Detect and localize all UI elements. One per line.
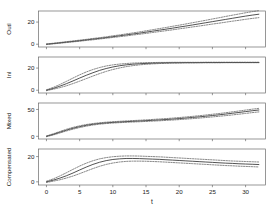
series-fit (46, 158, 258, 181)
x-tick-label: 25 (209, 188, 216, 195)
panel-axis-label: Outl (5, 23, 12, 34)
y-tick-label: 20 (28, 64, 35, 71)
series-upper-ci (46, 11, 258, 44)
panel-frame (39, 149, 266, 185)
y-tick-label: 50 (28, 106, 35, 113)
x-tick-label: 0 (45, 188, 49, 195)
y-tick-label: 0 (31, 133, 35, 140)
panel-axis-label: Mixed (5, 112, 12, 129)
x-tick-label: 20 (176, 188, 183, 195)
series-fit (46, 14, 258, 44)
x-tick-label: 5 (78, 188, 82, 195)
y-tick-label: 20 (28, 153, 35, 160)
x-tick-label: 15 (143, 188, 150, 195)
y-tick-label: 0 (31, 40, 35, 47)
panel-axis-label: Compensated (5, 147, 12, 186)
series-upper-ci (46, 156, 258, 181)
y-tick-label: 20 (28, 18, 35, 25)
panel-compensated: 020Compensated (5, 147, 266, 187)
y-tick-label: 0 (31, 178, 35, 185)
series-upper-ci (46, 108, 258, 136)
x-tick-label: 30 (242, 188, 249, 195)
series-lower-ci (46, 112, 258, 137)
series-lower-ci (46, 161, 258, 182)
series-fit (46, 110, 258, 136)
figure-panel-plot: 020Outl020Inl050Mixed020Compensated05101… (0, 0, 280, 207)
panel-outl: 020Outl (5, 11, 266, 50)
series-fit (46, 63, 258, 91)
series-lower-ci (46, 63, 258, 91)
panel-axis-label: Inl (5, 72, 12, 79)
panel-inl: 020Inl (5, 57, 266, 95)
multi-panel-line-chart: 020Outl020Inl050Mixed020Compensated05101… (0, 0, 280, 207)
series-upper-ci (46, 62, 258, 90)
panel-mixed: 050Mixed (5, 103, 266, 141)
y-tick-label: 0 (31, 86, 35, 93)
x-axis-label: t (151, 198, 153, 205)
x-tick-label: 10 (109, 188, 116, 195)
